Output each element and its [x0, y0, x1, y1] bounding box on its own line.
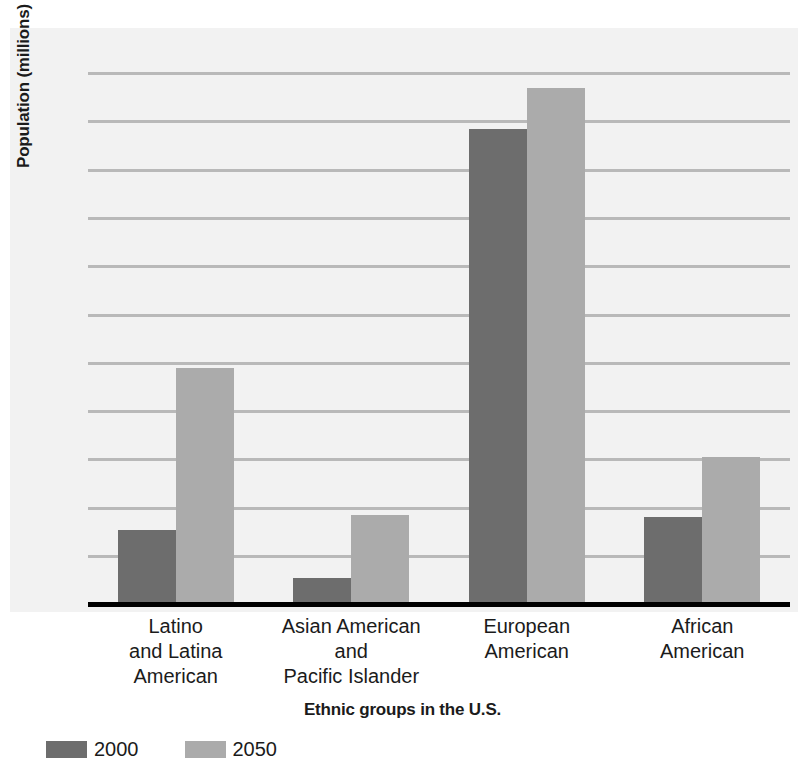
category-label-line: Pacific Islander	[241, 664, 461, 689]
gridline	[88, 362, 790, 365]
legend-item-2000[interactable]: 2000	[46, 739, 139, 759]
gridline	[88, 169, 790, 172]
legend: 20002050	[46, 739, 277, 759]
legend-item-2050[interactable]: 2050	[185, 739, 278, 759]
legend-swatch-icon	[185, 741, 226, 758]
scan-edge	[0, 0, 805, 4]
legend-label: 2000	[94, 739, 139, 759]
plot-area: 220.0200.0180.0160.0140.0120.0100.080.06…	[88, 73, 790, 605]
bar-2050-1	[351, 515, 409, 602]
bar-2050-0	[176, 368, 234, 602]
bar-2050-2	[527, 88, 585, 603]
legend-label: 2050	[233, 739, 278, 759]
category-label-line: African	[592, 614, 805, 639]
bar-2000-0	[118, 530, 176, 602]
gridline	[88, 72, 790, 75]
bar-2050-3	[702, 457, 760, 602]
chart-figure: Population (millions) 220.0200.0180.0160…	[0, 0, 805, 771]
category-label-line: American	[592, 639, 805, 664]
x-axis-line	[88, 602, 790, 607]
legend-swatch-icon	[46, 741, 87, 758]
gridline	[88, 265, 790, 268]
y-axis-title: Population (millions)	[4, 0, 44, 236]
bar-2000-2	[469, 129, 527, 602]
gridline	[88, 217, 790, 220]
gridline	[88, 314, 790, 317]
bar-2000-3	[644, 517, 702, 602]
gridline	[88, 120, 790, 123]
x-axis-title: Ethnic groups in the U.S.	[0, 700, 805, 720]
x-axis-category-label: AfricanAmerican	[592, 614, 805, 664]
bar-2000-1	[293, 578, 351, 602]
